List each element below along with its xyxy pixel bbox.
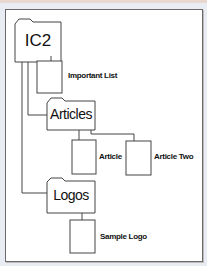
doc-sample-logo [70, 220, 95, 253]
doc-important-list [37, 61, 62, 93]
sample-logo-label: Sample Logo [100, 232, 147, 241]
article-two-label: Article Two [154, 152, 193, 161]
folder-ic2-label: IC2 [15, 31, 61, 51]
important-list-label: Important List [68, 71, 117, 80]
doc-article [72, 140, 96, 174]
folder-logos-label: Logos [47, 187, 95, 203]
article-label: Article [99, 152, 122, 161]
doc-article-two [126, 141, 151, 175]
folder-articles-label: Articles [47, 106, 95, 122]
